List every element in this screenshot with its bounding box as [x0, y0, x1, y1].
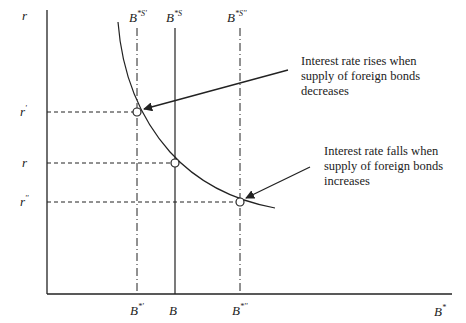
demand-curve: [118, 22, 275, 208]
arrow-rise: [144, 70, 288, 109]
y-tick-r-double-prime: r'': [20, 194, 29, 209]
x-tick-bstar-prime: B*': [130, 302, 144, 318]
y-tick-r-prime: r': [20, 104, 27, 119]
y-axis-label: r: [22, 8, 28, 23]
x-tick-b: B: [169, 303, 177, 318]
equilibrium-point-mid: [171, 159, 179, 167]
arrow-fall: [246, 167, 310, 198]
equilibrium-point-low: [236, 198, 244, 206]
label-bs: B*S: [166, 9, 182, 25]
annotation-fall-line: Interest rate falls when: [324, 144, 443, 159]
annotation-rise: Interest rate rises when supply of forei…: [301, 54, 420, 99]
annotation-fall-line: supply of foreign bonds: [324, 159, 443, 174]
equilibrium-point-high: [133, 108, 141, 116]
annotation-fall: Interest rate falls when supply of forei…: [324, 144, 443, 189]
annotation-rise-line: supply of foreign bonds: [301, 69, 420, 84]
label-bsdoubleprime: B*S'': [227, 9, 247, 25]
x-tick-bstar-double-prime: B*'': [232, 302, 248, 318]
x-axis-label: B*: [434, 303, 446, 319]
annotation-fall-line: increases: [324, 174, 443, 189]
annotation-rise-line: decreases: [301, 84, 420, 99]
y-tick-r: r: [22, 155, 28, 170]
annotation-rise-line: Interest rate rises when: [301, 54, 420, 69]
label-bsprime: B*S': [129, 9, 147, 25]
